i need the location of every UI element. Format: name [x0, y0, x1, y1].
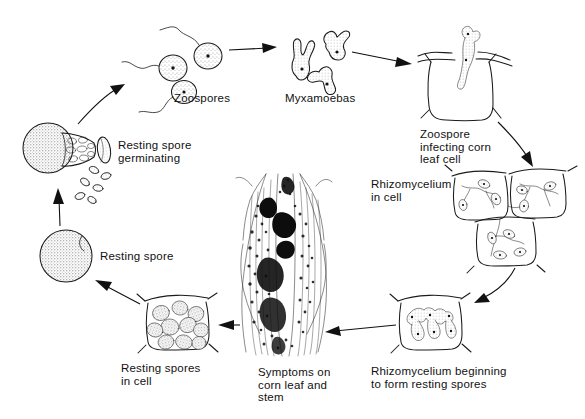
arrow-resting-spore-to-germinating [53, 188, 64, 226]
label-resting-spore: Resting spore [100, 250, 174, 263]
myxamoebas-illustration [292, 31, 350, 95]
resting-spores-in-cell-illustration [137, 293, 218, 353]
rhizomycelium-in-cell-illustration [445, 165, 577, 273]
arrow-rhizomycelium-to-forming-spores [474, 268, 515, 303]
arrow-zoospores-to-myxamoebas [229, 43, 277, 53]
resting-spore-illustration [40, 230, 92, 282]
life-cycle-diagram: Zoospores Myxamoebas Zoospore infecting … [0, 0, 585, 419]
label-symptoms-on-corn-leaf-and-stem: Symptoms on corn leaf and stem [258, 366, 331, 404]
rhizomycelium-forming-resting-spores-illustration [390, 293, 471, 353]
arrow-forming-spores-to-symptoms [325, 325, 396, 336]
resting-spore-germinating-illustration [23, 123, 112, 205]
arrow-symptoms-to-resting-spores-in-cell [218, 320, 240, 330]
label-myxamoebas: Myxamoebas [285, 92, 355, 105]
label-zoospores: Zoospores [174, 92, 230, 105]
arrow-myxamoebas-to-infecting-cell [352, 52, 412, 67]
label-zoospore-infecting-corn-leaf-cell: Zoospore infecting corn leaf cell [420, 128, 491, 166]
diagram-artwork [0, 0, 585, 419]
label-rhizomycelium-in-cell: Rhizomycelium in cell [371, 178, 452, 203]
label-resting-spores-in-cell: Resting spores in cell [121, 362, 201, 387]
label-rhizomycelium-beginning-to-form-resting-spores: Rhizomycelium beginning to form resting … [371, 365, 507, 390]
zoospore-infecting-corn-leaf-cell-illustration [418, 26, 512, 120]
symptoms-on-corn-leaf-and-stem-illustration [236, 174, 332, 356]
arrow-germinating-to-zoospores [78, 84, 125, 124]
arrow-infecting-cell-to-rhizomycelium [498, 122, 533, 167]
arrow-resting-spores-in-cell-to-resting-spore [95, 280, 140, 304]
label-resting-spore-germinating: Resting spore germinating [118, 139, 192, 164]
